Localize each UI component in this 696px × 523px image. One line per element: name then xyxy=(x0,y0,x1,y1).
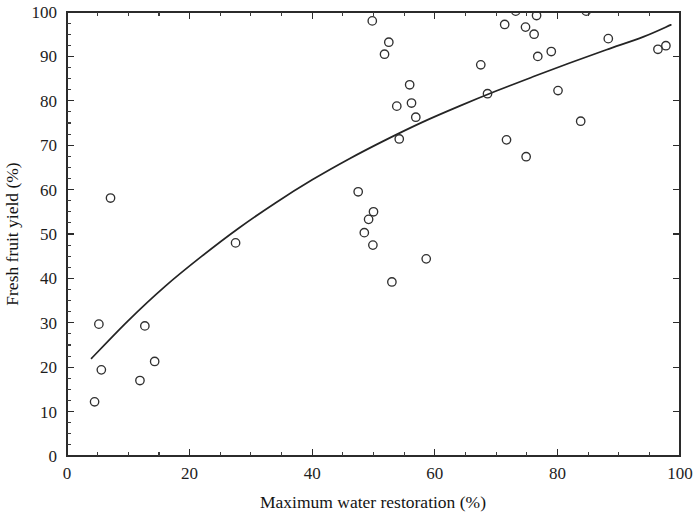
data-point xyxy=(369,241,377,249)
y-tick-label: 80 xyxy=(40,92,57,111)
data-point xyxy=(385,38,393,46)
data-point xyxy=(576,117,584,125)
data-point xyxy=(395,135,403,143)
y-axis-title: Fresh fruit yield (%) xyxy=(2,162,22,306)
axis-tick-labels: 0204060801000102030405060708090100 xyxy=(32,3,693,483)
data-point xyxy=(136,376,144,384)
x-tick-label: 100 xyxy=(667,464,693,483)
axis-frame xyxy=(67,12,680,456)
data-point xyxy=(354,188,362,196)
x-tick-label: 60 xyxy=(426,464,443,483)
y-tick-label: 0 xyxy=(49,447,58,466)
x-tick-label: 40 xyxy=(304,464,321,483)
y-tick-label: 30 xyxy=(40,314,57,333)
y-tick-label: 10 xyxy=(40,403,57,422)
y-tick-label: 40 xyxy=(40,269,57,288)
data-point xyxy=(422,255,430,263)
data-point xyxy=(547,47,555,55)
y-tick-label: 90 xyxy=(40,47,57,66)
y-tick-label: 70 xyxy=(40,136,57,155)
data-point xyxy=(512,7,520,15)
data-point xyxy=(534,52,542,60)
data-point xyxy=(412,113,420,121)
data-point xyxy=(90,398,98,406)
data-point xyxy=(364,215,372,223)
data-point xyxy=(369,208,377,216)
data-point xyxy=(393,102,401,110)
data-point xyxy=(106,194,114,202)
data-point xyxy=(502,136,510,144)
data-point xyxy=(380,50,388,58)
data-point xyxy=(500,20,508,28)
data-point xyxy=(582,7,590,15)
data-point xyxy=(554,86,562,94)
data-point xyxy=(530,30,538,38)
x-tick-label: 0 xyxy=(63,464,72,483)
data-point xyxy=(95,320,103,328)
data-point xyxy=(388,278,396,286)
data-point xyxy=(368,17,376,25)
axis-ticks xyxy=(67,12,680,456)
plot-canvas: 0204060801000102030405060708090100 Maxim… xyxy=(0,0,696,523)
plot-border xyxy=(67,12,680,456)
data-points-layer xyxy=(90,7,670,406)
scatter-plot-figure: 0204060801000102030405060708090100 Maxim… xyxy=(0,0,696,523)
data-point xyxy=(97,366,105,374)
y-tick-label: 100 xyxy=(32,3,58,22)
data-point xyxy=(521,23,529,31)
data-point xyxy=(405,81,413,89)
data-point xyxy=(360,228,368,236)
data-point xyxy=(231,239,239,247)
y-tick-label: 50 xyxy=(40,225,57,244)
data-point xyxy=(654,45,662,53)
data-point xyxy=(477,61,485,69)
data-point xyxy=(604,34,612,42)
y-tick-label: 20 xyxy=(40,358,57,377)
data-point xyxy=(150,357,158,365)
data-point xyxy=(662,42,670,50)
data-point xyxy=(407,99,415,107)
trend-line xyxy=(92,25,671,358)
data-point xyxy=(141,322,149,330)
x-axis-title: Maximum water restoration (%) xyxy=(260,492,486,512)
x-tick-label: 20 xyxy=(181,464,198,483)
fitted-trend-curve xyxy=(92,25,671,358)
data-point xyxy=(522,153,530,161)
x-tick-label: 80 xyxy=(549,464,566,483)
y-tick-label: 60 xyxy=(40,181,57,200)
